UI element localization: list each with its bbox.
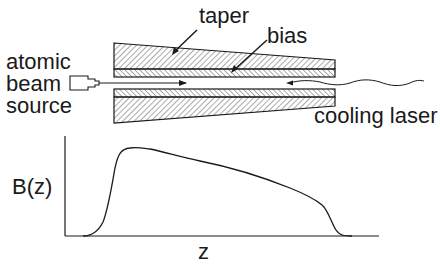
y-axis-label: B(z) bbox=[12, 175, 52, 199]
field-profile-curve bbox=[83, 148, 352, 236]
cooling-laser-wave bbox=[286, 80, 424, 86]
cooling-laser-label: cooling laser bbox=[314, 104, 438, 128]
bias-label: bias bbox=[267, 24, 307, 48]
upper-bias-coil bbox=[114, 69, 335, 77]
lower-bias-coil bbox=[114, 89, 335, 97]
x-axis-label: z bbox=[198, 240, 209, 264]
taper-label: taper bbox=[199, 4, 249, 28]
source-label-line3: source bbox=[6, 94, 72, 118]
diagram-canvas bbox=[0, 0, 440, 268]
zeeman-slower-diagram: taper bias atomic beam source cooling la… bbox=[0, 0, 440, 268]
beam-source-nozzle-icon bbox=[70, 76, 99, 90]
lower-taper-coil bbox=[114, 97, 335, 123]
